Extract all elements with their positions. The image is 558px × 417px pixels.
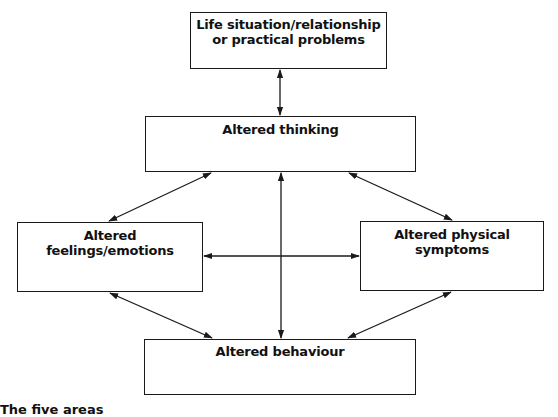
box-altered-physical-line2: symptoms bbox=[415, 242, 489, 257]
box-altered-thinking: Altered thinking bbox=[145, 116, 416, 172]
box-life-situation: Life situation/relationship or practical… bbox=[190, 12, 387, 69]
box-altered-feelings-label: Altered feelings/emotions bbox=[18, 223, 202, 258]
box-altered-physical-label: Altered physical symptoms bbox=[361, 222, 543, 257]
arrow-thinking-feelings bbox=[109, 173, 211, 221]
box-life-situation-label: Life situation/relationship or practical… bbox=[191, 13, 386, 47]
box-altered-thinking-label: Altered thinking bbox=[146, 117, 415, 137]
arrow-feelings-behaviour bbox=[110, 293, 212, 338]
box-life-situation-line1: Life situation/relationship bbox=[196, 17, 380, 32]
box-altered-physical-line1: Altered physical bbox=[394, 227, 510, 242]
arrow-physical-behaviour bbox=[348, 292, 451, 338]
arrow-thinking-physical bbox=[349, 173, 452, 220]
box-altered-feelings: Altered feelings/emotions bbox=[17, 222, 203, 292]
box-life-situation-line2: or practical problems bbox=[212, 32, 365, 47]
box-altered-physical: Altered physical symptoms bbox=[360, 221, 544, 291]
box-altered-behaviour-label: Altered behaviour bbox=[145, 340, 415, 359]
box-altered-behaviour: Altered behaviour bbox=[144, 339, 416, 395]
figure-caption-clipped: The five areas bbox=[0, 402, 103, 417]
